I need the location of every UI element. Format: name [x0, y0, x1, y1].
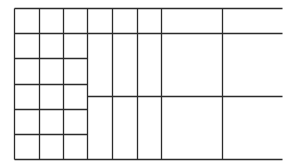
grid-diagram	[0, 0, 294, 168]
